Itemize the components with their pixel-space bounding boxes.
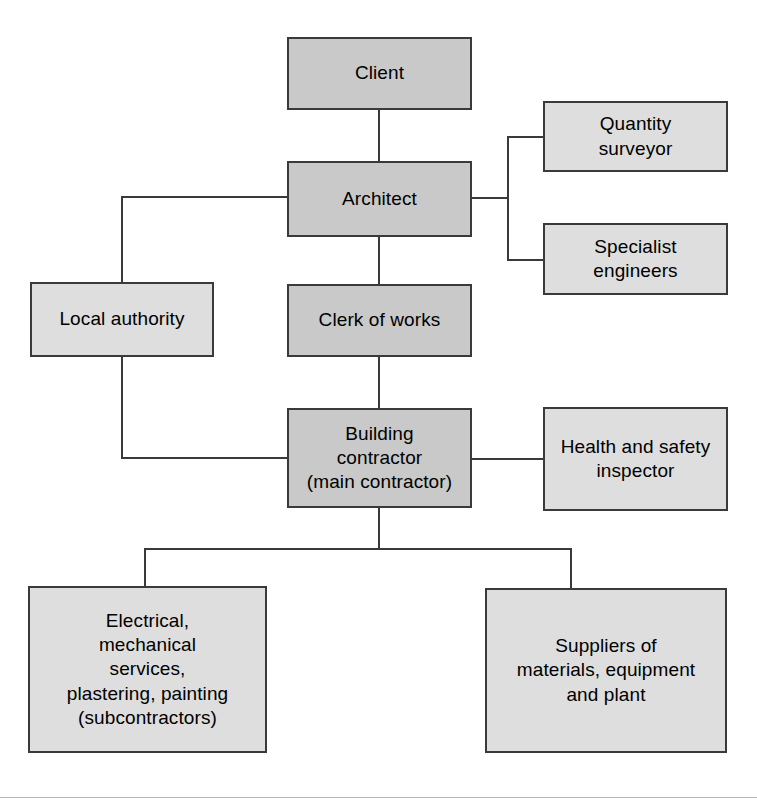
- node-building-contractor: Building contractor (main contractor): [287, 408, 472, 508]
- connector-bus-to-subcontractors: [144, 548, 146, 588]
- connector-architect-to-clerk: [378, 237, 380, 284]
- connector-client-to-architect: [378, 110, 380, 161]
- connector-bottom-bus: [144, 548, 572, 550]
- node-architect: Architect: [287, 161, 472, 237]
- footer-rule: [0, 797, 757, 798]
- connector-local-authority-to-contractor: [121, 457, 287, 459]
- node-quantity-surveyor: Quantity surveyor: [543, 101, 728, 172]
- node-client: Client: [287, 37, 472, 110]
- connector-bus-to-suppliers: [570, 548, 572, 590]
- organisation-chart: ClientArchitectQuantity surveyorSpeciali…: [0, 0, 757, 802]
- node-specialist-engineers: Specialist engineers: [543, 223, 728, 295]
- node-health-safety-inspector: Health and safety inspector: [543, 407, 728, 511]
- connector-local-authority-drop: [121, 357, 123, 459]
- connector-clerk-to-contractor: [378, 357, 380, 408]
- connector-to-quantity-surveyor: [507, 136, 545, 138]
- connector-to-specialist-engineers: [507, 259, 545, 261]
- connector-architect-right-riser: [507, 136, 509, 261]
- node-clerk-of-works: Clerk of works: [287, 284, 472, 357]
- node-subcontractors: Electrical, mechanical services, plaster…: [28, 586, 267, 753]
- connector-architect-left-stub: [121, 196, 287, 198]
- connector-contractor-to-inspector: [470, 458, 545, 460]
- node-suppliers: Suppliers of materials, equipment and pl…: [485, 588, 727, 753]
- connector-contractor-down-to-bus: [378, 508, 380, 550]
- node-local-authority: Local authority: [30, 282, 214, 357]
- connector-architect-right-stub: [470, 197, 509, 199]
- connector-architect-to-local-authority-drop: [121, 196, 123, 282]
